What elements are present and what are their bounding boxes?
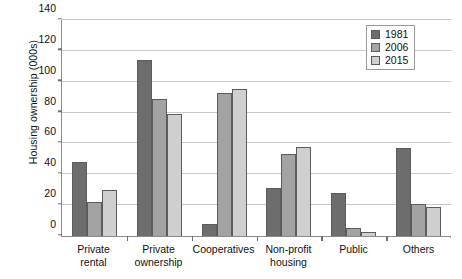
y-tick-label: 20 [44, 187, 62, 199]
bar [426, 207, 441, 236]
bar [361, 232, 376, 236]
x-tick-mark [257, 236, 258, 241]
y-tick-label: 100 [38, 64, 62, 76]
bar [296, 147, 311, 236]
x-tick-mark [192, 236, 193, 241]
bar [411, 204, 426, 236]
x-axis-labels: Private rentalPrivate ownershipCooperati… [61, 243, 451, 268]
bar [217, 93, 232, 236]
legend-label: 2006 [385, 42, 408, 53]
legend-label: 2015 [385, 55, 408, 66]
x-axis-label: Public [321, 243, 386, 268]
bar [281, 154, 296, 236]
bar [232, 89, 247, 236]
bar [331, 193, 346, 236]
y-tick-label: 120 [38, 33, 62, 45]
bar [266, 188, 281, 236]
y-tick-label: 0 [50, 218, 62, 230]
bar-group [62, 20, 127, 236]
x-tick-mark [321, 236, 322, 241]
y-axis-title: Housing ownership (000s) [27, 17, 39, 187]
x-tick-mark [127, 236, 128, 241]
x-axis-label: Private rental [61, 243, 126, 268]
x-axis-label: Non-profit housing [256, 243, 321, 268]
bar [152, 99, 167, 236]
bar [167, 114, 182, 236]
legend-item[interactable]: 2015 [371, 55, 408, 66]
bar-group [192, 20, 257, 236]
bar-group [127, 20, 192, 236]
y-tick-label: 40 [44, 156, 62, 168]
bar [102, 190, 117, 236]
x-tick-mark [386, 236, 387, 241]
bar [137, 60, 152, 236]
x-axis-label: Private ownership [126, 243, 191, 268]
y-tick-label: 140 [38, 2, 62, 14]
y-tick-label: 80 [44, 95, 62, 107]
legend-item[interactable]: 2006 [371, 42, 408, 53]
bar [72, 162, 87, 236]
x-axis-label: Others [386, 243, 451, 268]
bar [396, 148, 411, 236]
legend: 198120062015 [366, 25, 415, 70]
legend-label: 1981 [385, 29, 408, 40]
legend-swatch [371, 56, 380, 65]
x-axis-label: Cooperatives [191, 243, 256, 268]
y-tick-label: 60 [44, 125, 62, 137]
bar-group [256, 20, 321, 236]
bar [346, 228, 361, 236]
bar [202, 224, 217, 236]
bar [87, 202, 102, 236]
legend-swatch [371, 30, 380, 39]
bar-chart: Housing ownership (000s) 020406080100120… [0, 0, 462, 279]
legend-item[interactable]: 1981 [371, 29, 408, 40]
legend-swatch [371, 43, 380, 52]
